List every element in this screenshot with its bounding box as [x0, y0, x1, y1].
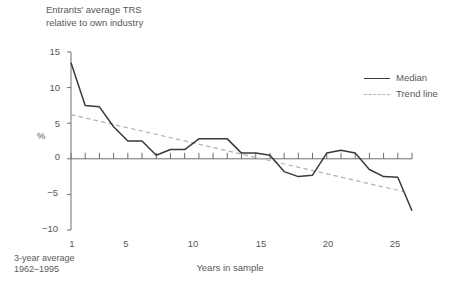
axes: [67, 52, 412, 230]
y-axis-ticks: [67, 52, 71, 230]
plot-canvas: [0, 0, 463, 294]
series-median-line: [71, 63, 412, 211]
chart-figure: Entrants' average TRS relative to own in…: [0, 0, 463, 294]
